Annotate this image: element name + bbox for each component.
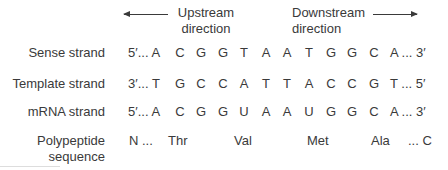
residue-val: Val [234, 133, 252, 148]
mrna-start: 5′... A [128, 104, 160, 119]
sense-start: 5′... A [128, 45, 160, 60]
sense-strand-label: Sense strand [28, 45, 105, 60]
polypeptide-label-line2: sequence [37, 149, 105, 165]
template-base: C [321, 76, 341, 91]
sense-base: C [364, 45, 384, 60]
n-terminus: N ... [129, 133, 153, 148]
template-base: C [213, 76, 233, 91]
downstream-direction-label: Downstream direction [292, 5, 368, 37]
residue-ala: Ala [371, 133, 390, 148]
mrna-base: C [170, 104, 190, 119]
template-base: G [364, 76, 384, 91]
template-base: T [256, 76, 276, 91]
residue-thr: Thr [168, 133, 188, 148]
sense-base: A [277, 45, 297, 60]
polypeptide-label-line1: Polypeptide [37, 133, 105, 149]
sense-base: G [321, 45, 341, 60]
upstream-line1: Upstream [166, 5, 246, 21]
template-base: T [277, 76, 297, 91]
upstream-arrow-icon [124, 14, 168, 15]
template-base: C [191, 76, 211, 91]
mrna-base: U [234, 104, 254, 119]
mrna-base: C [364, 104, 384, 119]
polypeptide-label: Polypeptide sequence [37, 133, 105, 165]
downstream-arrow-icon [373, 14, 417, 15]
downstream-line1: Downstream [292, 5, 368, 21]
upstream-direction-label: Upstream direction [166, 5, 246, 37]
template-start: 3′... T [128, 76, 160, 91]
mrna-base: G [342, 104, 362, 119]
mrna-base: G [321, 104, 341, 119]
sense-base: C [170, 45, 190, 60]
mrna-base: G [213, 104, 233, 119]
template-strand-label: Template strand [13, 76, 106, 91]
mrna-base: A [277, 104, 297, 119]
downstream-line2: direction [292, 21, 368, 37]
template-base: C [342, 76, 362, 91]
template-base: A [234, 76, 254, 91]
sense-end: A ... 3′ [390, 45, 426, 60]
sense-base: G [213, 45, 233, 60]
mrna-strand-label: mRNA strand [28, 104, 105, 119]
c-terminus: ... C [408, 133, 432, 148]
upstream-line2: direction [166, 21, 246, 37]
sense-base: G [191, 45, 211, 60]
sense-base: T [299, 45, 319, 60]
divider [0, 166, 60, 167]
template-base: A [299, 76, 319, 91]
sense-base: A [256, 45, 276, 60]
template-base: G [170, 76, 190, 91]
mrna-base: U [299, 104, 319, 119]
mrna-base: A [256, 104, 276, 119]
sense-base: T [234, 45, 254, 60]
mrna-end: A ... 3′ [390, 104, 426, 119]
template-end: T ... 5′ [390, 76, 425, 91]
mrna-base: G [191, 104, 211, 119]
residue-met: Met [307, 133, 329, 148]
sense-base: G [342, 45, 362, 60]
